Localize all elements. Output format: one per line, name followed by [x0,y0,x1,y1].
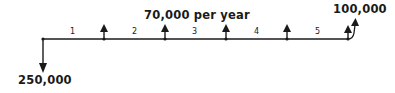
period-label-4: 4 [254,27,259,36]
cash-flow-diagram: 1 2 3 4 5 70,000 per year 100,000 250,00… [0,0,395,93]
salvage-inflow-label: 100,000 [333,2,387,16]
annual-inflow-label: 70,000 per year [144,8,250,22]
inflow-arrow-up-icon-year-1 [100,24,108,39]
inflow-arrow-up-icon-year-2 [161,24,169,39]
period-label-3: 3 [192,27,197,36]
inflow-arrow-up-icon-year-4 [283,24,291,39]
period-label-2: 2 [132,27,137,36]
period-label-1: 1 [70,27,75,36]
inflow-arrow-up-icon-year-5 [344,25,352,39]
initial-outflow-label: 250,000 [18,73,72,87]
period-label-5: 5 [315,27,320,36]
outflow-arrow-down-icon [39,39,47,73]
inflow-arrow-up-icon-year-3 [222,24,230,39]
